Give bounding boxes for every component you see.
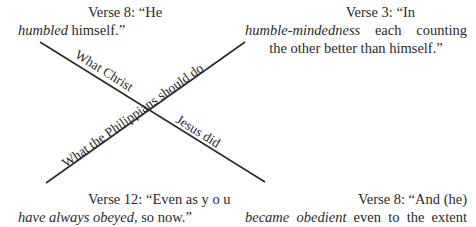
label-jesus-did: Jesus did: [173, 112, 223, 151]
label-what-christ: What Christ: [72, 47, 136, 95]
cross-diagram: What Christ Jesus did What the Philippia…: [0, 0, 476, 227]
